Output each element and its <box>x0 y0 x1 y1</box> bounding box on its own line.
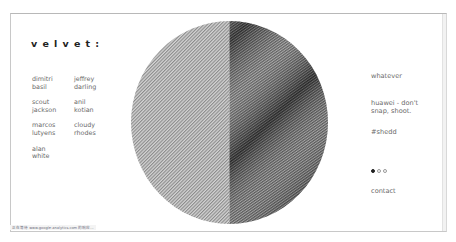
carousel-dots <box>371 169 387 173</box>
nav-link-hashtag[interactable]: #shedd <box>371 129 447 137</box>
page-frame: velvet: dimitri basil jeffrey darling sc… <box>10 13 447 232</box>
contact-link[interactable]: contact <box>371 188 447 196</box>
nav-link-person[interactable]: alan white <box>32 146 74 161</box>
nav-link-person[interactable]: dimitri basil <box>32 76 74 91</box>
nav-link-project[interactable]: huawei - don't snap, shoot. <box>371 100 447 116</box>
nav-link-whatever[interactable]: whatever <box>371 73 447 81</box>
carousel-dot-1[interactable] <box>371 169 375 173</box>
nav-link-person[interactable]: scout jackson <box>32 99 74 114</box>
scrollbar[interactable] <box>442 14 446 231</box>
nav-link-person[interactable]: cloudy rhodes <box>74 122 116 137</box>
nav-link-person[interactable]: anil kotian <box>74 99 116 114</box>
nav-link-person[interactable]: marcos lutyens <box>32 122 74 137</box>
people-nav: dimitri basil jeffrey darling scout jack… <box>32 76 116 161</box>
hero-halftone-circle[interactable] <box>130 20 329 225</box>
carousel-dot-2[interactable] <box>377 169 381 173</box>
browser-status-bar: 正在等待 www.google-analytics.com 的响应... <box>10 225 96 230</box>
carousel-dot-3[interactable] <box>383 169 387 173</box>
logo[interactable]: velvet: <box>31 38 104 49</box>
nav-link-person[interactable]: jeffrey darling <box>74 76 116 91</box>
